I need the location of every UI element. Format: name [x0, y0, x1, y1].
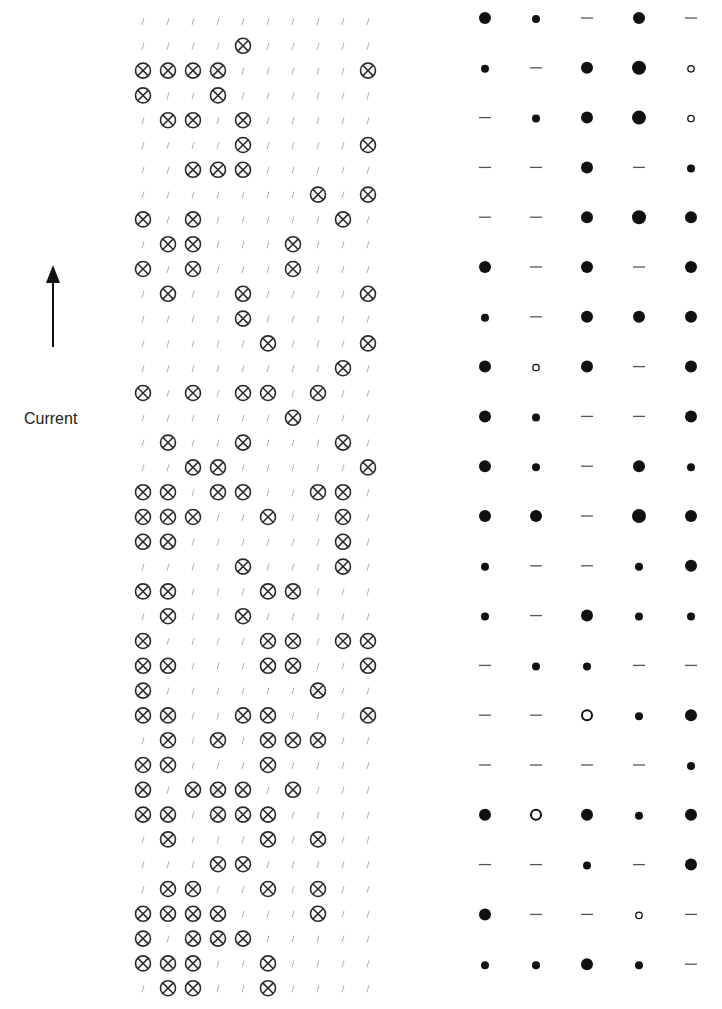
medium-dot [581, 809, 593, 821]
circle-cross-icon [311, 882, 326, 897]
slash-mark [342, 241, 344, 248]
circle-cross-icon [186, 956, 201, 971]
slash-mark [242, 365, 244, 372]
medium-dot [581, 112, 593, 124]
slash-mark [367, 539, 369, 546]
slash-mark [292, 812, 294, 819]
slash-mark [367, 216, 369, 223]
circle-cross-icon [311, 485, 326, 500]
circle-cross-icon [236, 113, 251, 128]
slash-mark [267, 365, 269, 372]
small-dot [481, 613, 489, 621]
medium-dot [479, 510, 491, 522]
slash-mark [267, 464, 269, 471]
circle-cross-icon [186, 906, 201, 921]
slash-mark [342, 291, 344, 298]
circle-cross-icon [361, 286, 376, 301]
slash-mark [267, 92, 269, 99]
circle-cross-icon [336, 485, 351, 500]
circle-cross-icon [261, 832, 276, 847]
circle-cross-icon [186, 460, 201, 475]
slash-mark [342, 911, 344, 918]
slash-mark [142, 564, 144, 571]
circle-cross-icon [236, 162, 251, 177]
medium-dot [685, 261, 697, 273]
slash-mark [192, 415, 194, 422]
slash-mark [242, 836, 244, 843]
slash-mark [342, 886, 344, 893]
slash-mark [242, 241, 244, 248]
small-dot [635, 812, 643, 820]
circle-cross-icon [136, 510, 151, 525]
slash-mark [317, 812, 319, 819]
circle-cross-icon [361, 460, 376, 475]
slash-mark [317, 762, 319, 769]
slash-mark [192, 638, 194, 645]
slash-mark [267, 192, 269, 199]
circle-cross-icon [236, 138, 251, 153]
slash-mark [242, 216, 244, 223]
medium-dot [581, 361, 593, 373]
slash-mark [317, 588, 319, 595]
slash-mark [142, 117, 144, 124]
slash-mark [317, 167, 319, 174]
circle-cross-icon [236, 931, 251, 946]
circle-cross-icon [136, 63, 151, 78]
circle-cross-icon [336, 212, 351, 227]
circle-cross-icon [261, 733, 276, 748]
circle-cross-icon [236, 435, 251, 450]
slash-mark [192, 489, 194, 496]
circle-cross-icon [136, 658, 151, 673]
slash-mark [242, 737, 244, 744]
diagram-canvas [0, 0, 722, 1009]
slash-mark [292, 861, 294, 868]
slash-mark [342, 390, 344, 397]
slash-mark [242, 464, 244, 471]
slash-mark [142, 316, 144, 323]
circle-cross-icon [286, 782, 301, 797]
slash-mark [292, 613, 294, 620]
circle-cross-icon [261, 882, 276, 897]
slash-mark [192, 539, 194, 546]
slash-mark [242, 340, 244, 347]
slash-mark [292, 440, 294, 447]
circle-cross-icon [161, 534, 176, 549]
slash-mark [217, 712, 219, 719]
slash-mark [367, 564, 369, 571]
slash-mark [267, 911, 269, 918]
slash-mark [167, 787, 169, 794]
slash-mark [292, 911, 294, 918]
slash-mark [367, 737, 369, 744]
slash-mark [217, 663, 219, 670]
circle-cross-icon [136, 212, 151, 227]
slash-mark [317, 960, 319, 967]
slash-mark [142, 291, 144, 298]
slash-mark [142, 43, 144, 50]
slash-mark [142, 737, 144, 744]
slash-mark [217, 241, 219, 248]
slash-mark [217, 390, 219, 397]
circle-cross-icon [211, 782, 226, 797]
slash-mark [317, 440, 319, 447]
medium-dot [479, 908, 491, 920]
slash-mark [142, 886, 144, 893]
slash-mark [142, 415, 144, 422]
slash-mark [142, 167, 144, 174]
circle-cross-icon [136, 88, 151, 103]
circle-cross-icon [136, 807, 151, 822]
circle-cross-icon [186, 262, 201, 277]
slash-mark [217, 18, 219, 25]
slash-mark [367, 812, 369, 819]
large-dot [632, 111, 646, 125]
circle-cross-icon [236, 857, 251, 872]
slash-mark [242, 539, 244, 546]
slash-mark [292, 564, 294, 571]
slash-mark [217, 266, 219, 273]
slash-mark [242, 68, 244, 75]
slash-mark [292, 836, 294, 843]
medium-dot [685, 809, 697, 821]
slash-mark [217, 886, 219, 893]
slash-mark [267, 43, 269, 50]
circle-cross-icon [161, 63, 176, 78]
small-open-circle [533, 364, 539, 370]
